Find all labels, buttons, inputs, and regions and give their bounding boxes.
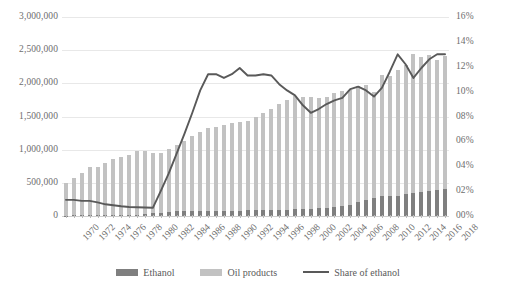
legend-swatch-line-icon <box>303 271 329 274</box>
x-axis-tickmark <box>295 215 296 218</box>
x-axis-tickmark <box>161 215 162 218</box>
legend-label: Ethanol <box>143 267 174 278</box>
x-axis-tickmark <box>437 215 438 218</box>
legend-label: Oil products <box>227 267 277 278</box>
x-axis-tickmark <box>279 215 280 218</box>
y-axis-right-tick: 06% <box>452 136 512 146</box>
x-axis-tickmark <box>334 215 335 218</box>
x-axis-tickmark <box>90 215 91 218</box>
x-axis-tick-label: 1992 <box>254 222 275 243</box>
x-axis-tickmark <box>121 215 122 218</box>
x-axis-tickmark <box>248 215 249 218</box>
chart-container: 0500,0001,000,0001,500,0002,000,0002,500… <box>0 0 516 285</box>
x-axis-tick-label: 1972 <box>96 222 117 243</box>
x-axis-tickmark <box>398 215 399 218</box>
y-axis-right: 00%02%04%06%08%10%12%14%16% <box>452 0 510 233</box>
x-axis-tickmark <box>429 215 430 218</box>
x-axis-tickmark <box>390 215 391 218</box>
x-axis-tickmark <box>311 215 312 218</box>
y-axis-left-tick: 1,500,000 <box>2 112 58 122</box>
y-axis-left-tick: 3,000,000 <box>2 12 58 22</box>
x-axis-tickmark <box>82 215 83 218</box>
x-axis-tickmark <box>421 215 422 218</box>
chart-legend: EthanolOil productsShare of ethanol <box>0 262 516 282</box>
x-axis-tick-label: 1982 <box>175 222 196 243</box>
x-axis-tickmark <box>216 215 217 218</box>
share-of-ethanol-line <box>62 17 449 216</box>
x-axis-tickmark <box>184 215 185 218</box>
x-axis-tickmark <box>445 215 446 218</box>
x-axis-tickmark <box>74 215 75 218</box>
x-axis-tickmark <box>374 215 375 218</box>
x-axis-tickmark <box>406 215 407 218</box>
x-axis-tickmark <box>413 215 414 218</box>
y-axis-right-tick: 08% <box>452 112 512 122</box>
y-axis-right-tick: 12% <box>452 62 512 72</box>
x-axis-tickmark <box>271 215 272 218</box>
x-axis-tickmark <box>224 215 225 218</box>
x-axis-tickmark <box>208 215 209 218</box>
x-axis-tickmark <box>232 215 233 218</box>
legend-item[interactable]: Share of ethanol <box>303 267 400 278</box>
x-axis-tickmark <box>98 215 99 218</box>
x-axis-tickmark <box>129 215 130 218</box>
x-axis-tickmark <box>366 215 367 218</box>
y-axis-left-tick: 2,500,000 <box>2 45 58 55</box>
x-axis-tickmark <box>66 215 67 218</box>
x-axis: 1970197219741976197819801982198419861988… <box>62 218 449 262</box>
y-axis-right-tick: 02% <box>452 186 512 196</box>
y-axis-left-tick: 0 <box>2 211 58 221</box>
x-axis-tickmark <box>240 215 241 218</box>
x-axis-tickmark <box>169 215 170 218</box>
y-axis-right-tick: 14% <box>452 37 512 47</box>
x-axis-tickmark <box>350 215 351 218</box>
y-axis-right-tick: 16% <box>452 12 512 22</box>
x-axis-tickmark <box>319 215 320 218</box>
x-axis-tickmark <box>256 215 257 218</box>
y-axis-right-tick: 00% <box>452 211 512 221</box>
x-axis-tickmark <box>327 215 328 218</box>
legend-swatch-bar-icon <box>200 269 222 276</box>
legend-swatch-bar-icon <box>116 269 138 276</box>
x-axis-tickmark <box>287 215 288 218</box>
x-axis-tickmark <box>105 215 106 218</box>
y-axis-right-tick: 04% <box>452 161 512 171</box>
x-axis-tickmark <box>145 215 146 218</box>
x-axis-tickmark <box>137 215 138 218</box>
y-axis-left-tick: 2,000,000 <box>2 78 58 88</box>
x-axis-tickmark <box>192 215 193 218</box>
y-axis-left-tick: 500,000 <box>2 178 58 188</box>
x-axis-tickmark <box>382 215 383 218</box>
line-path <box>66 54 445 207</box>
y-axis-left-tick: 1,000,000 <box>2 145 58 155</box>
legend-label: Share of ethanol <box>334 267 400 278</box>
x-axis-tickmark <box>153 215 154 218</box>
x-axis-tickmark <box>303 215 304 218</box>
x-axis-tickmark <box>200 215 201 218</box>
x-axis-tickmark <box>113 215 114 218</box>
x-axis-tickmark <box>342 215 343 218</box>
y-axis-left: 0500,0001,000,0001,500,0002,000,0002,500… <box>0 0 58 233</box>
line-series-layer <box>62 17 449 216</box>
x-axis-tickmark <box>263 215 264 218</box>
x-axis-tickmark <box>177 215 178 218</box>
legend-item[interactable]: Ethanol <box>116 267 174 278</box>
y-axis-right-tick: 10% <box>452 87 512 97</box>
legend-item[interactable]: Oil products <box>200 267 277 278</box>
x-axis-tickmark <box>358 215 359 218</box>
